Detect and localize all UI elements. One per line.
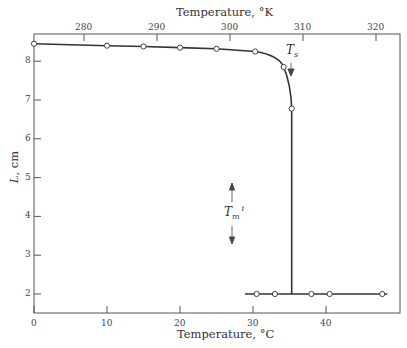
tick-label: 30 xyxy=(247,318,258,328)
y-axis-unit: , cm xyxy=(7,151,21,176)
tick-label: 20 xyxy=(174,318,185,328)
axis-ticks xyxy=(34,34,376,313)
plot-frame xyxy=(34,34,400,313)
tick-label: 7 xyxy=(25,94,31,104)
tick-label: 4 xyxy=(25,210,31,220)
data-markers xyxy=(31,41,384,296)
ts-main: T xyxy=(286,43,294,57)
tick-label: 3 xyxy=(25,249,31,259)
ts-annotation: Ts xyxy=(286,43,298,59)
tick-label: 290 xyxy=(148,22,165,32)
tick-label: 6 xyxy=(25,133,31,143)
chart-svg xyxy=(0,0,407,348)
bottom-axis-title: Temperature, °C xyxy=(177,327,274,341)
tm-sub: m xyxy=(232,212,240,221)
tick-label: 0 xyxy=(31,318,37,328)
y-axis-title: L, cm xyxy=(7,147,21,187)
tick-label: 310 xyxy=(294,22,311,32)
tick-label: 40 xyxy=(320,318,331,328)
top-axis-title: Temperature, °K xyxy=(176,5,273,19)
tick-label: 2 xyxy=(25,288,31,298)
tick-label: 10 xyxy=(101,318,112,328)
tm-sup: i xyxy=(242,204,245,213)
tick-label: 300 xyxy=(221,22,238,32)
tm-annotation: Tmi xyxy=(224,204,244,221)
y-axis-var: L xyxy=(7,176,21,184)
tm-main: T xyxy=(224,205,232,219)
tick-label: 5 xyxy=(25,172,31,182)
tick-label: 280 xyxy=(75,22,92,32)
tick-label: 8 xyxy=(25,55,31,65)
ts-arrow-icon xyxy=(288,63,294,76)
tick-label: 320 xyxy=(367,22,384,32)
data-curves xyxy=(34,44,387,294)
ts-sub: s xyxy=(294,50,298,59)
